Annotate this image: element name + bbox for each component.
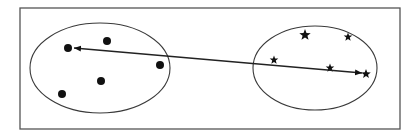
- dot-point-icon: [58, 90, 66, 98]
- dot-point-icon: [64, 44, 72, 52]
- clusters-group: [30, 23, 377, 113]
- dot-point-icon: [97, 77, 105, 85]
- star-point-icon: [299, 29, 310, 40]
- double-headed-distance-arrow: [74, 48, 362, 73]
- diagram-canvas: [0, 0, 420, 135]
- star-point-icon: [270, 56, 279, 64]
- cluster-left-boundary-ellipse: [30, 23, 170, 113]
- cluster-right: [253, 26, 377, 110]
- dot-point-icon: [156, 61, 164, 69]
- cluster-distance-diagram: [0, 0, 420, 135]
- star-point-icon: [361, 69, 371, 78]
- dot-point-icon: [103, 37, 111, 45]
- cluster-right-boundary-ellipse: [253, 26, 377, 110]
- cluster-left: [30, 23, 170, 113]
